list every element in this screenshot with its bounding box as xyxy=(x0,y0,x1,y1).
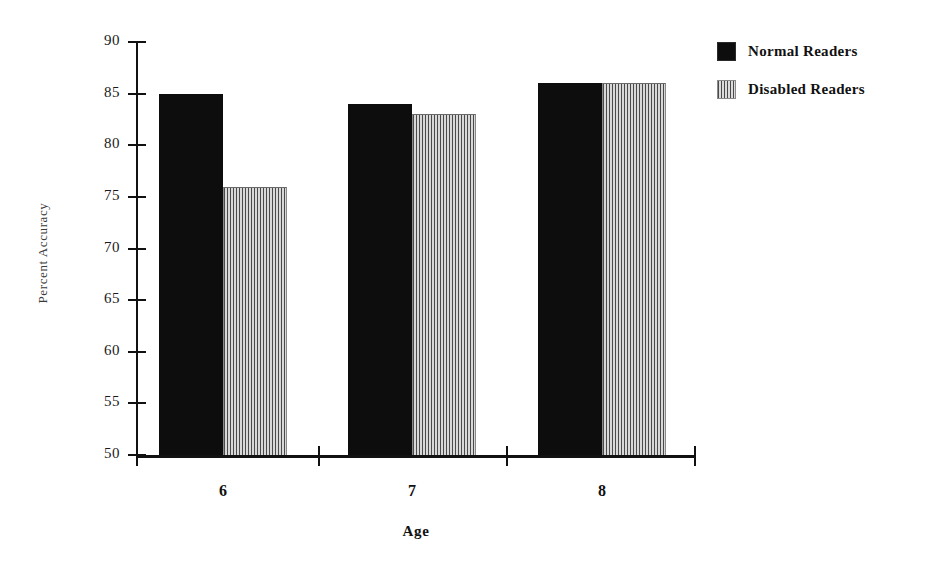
legend-item-normal-readers[interactable]: Normal Readers xyxy=(717,42,917,61)
x-tick-label-age-6: 6 xyxy=(193,482,253,500)
x-axis-line xyxy=(136,455,696,458)
y-tick-label: 55 xyxy=(80,394,120,409)
striped-swatch-icon xyxy=(717,80,736,99)
x-tick-label-age-7: 7 xyxy=(382,482,442,500)
y-tick-label: 90 xyxy=(80,33,120,48)
x-tick-label-age-8: 8 xyxy=(572,482,632,500)
bar-disabled-age-8 xyxy=(602,83,666,455)
y-tick-90: 90 xyxy=(0,41,146,43)
x-tick-mark-2 xyxy=(506,446,508,466)
y-tick-label: 65 xyxy=(80,291,120,306)
y-tick-mark xyxy=(128,351,146,353)
y-tick-label: 80 xyxy=(80,136,120,151)
y-tick-65: 65 xyxy=(0,299,146,301)
bar-disabled-age-6 xyxy=(223,187,287,455)
legend-label-disabled-readers: Disabled Readers xyxy=(748,81,865,98)
y-tick-70: 70 xyxy=(0,248,146,250)
y-tick-mark xyxy=(128,196,146,198)
y-tick-85: 85 xyxy=(0,93,146,95)
x-tick-mark-3 xyxy=(694,446,696,466)
y-tick-label: 70 xyxy=(80,240,120,255)
y-tick-55: 55 xyxy=(0,402,146,404)
bar-disabled-age-7 xyxy=(412,114,476,455)
y-tick-mark xyxy=(128,402,146,404)
y-tick-50: 50 xyxy=(0,454,146,456)
x-tick-mark-0 xyxy=(136,446,138,466)
bar-chart: 908580757065605550 Percent Accuracy 678 … xyxy=(0,0,925,564)
legend-item-disabled-readers[interactable]: Disabled Readers xyxy=(717,80,917,99)
bar-normal-age-6 xyxy=(159,94,223,455)
y-tick-80: 80 xyxy=(0,144,146,146)
y-tick-60: 60 xyxy=(0,351,146,353)
x-axis-title: Age xyxy=(136,523,696,540)
solid-black-swatch-icon xyxy=(717,42,736,61)
y-tick-label: 50 xyxy=(80,446,120,461)
y-axis-title: Percent Accuracy xyxy=(35,173,51,333)
legend: Normal Readers Disabled Readers xyxy=(717,42,917,118)
y-tick-label: 75 xyxy=(80,188,120,203)
y-tick-mark xyxy=(128,41,146,43)
x-tick-mark-1 xyxy=(318,446,320,466)
y-tick-mark xyxy=(128,299,146,301)
bar-normal-age-7 xyxy=(348,104,412,455)
y-tick-mark xyxy=(128,93,146,95)
y-tick-75: 75 xyxy=(0,196,146,198)
legend-label-normal-readers: Normal Readers xyxy=(748,43,858,60)
y-tick-label: 85 xyxy=(80,85,120,100)
y-tick-mark xyxy=(128,144,146,146)
y-tick-mark xyxy=(128,248,146,250)
bar-normal-age-8 xyxy=(538,83,602,455)
y-tick-label: 60 xyxy=(80,343,120,358)
